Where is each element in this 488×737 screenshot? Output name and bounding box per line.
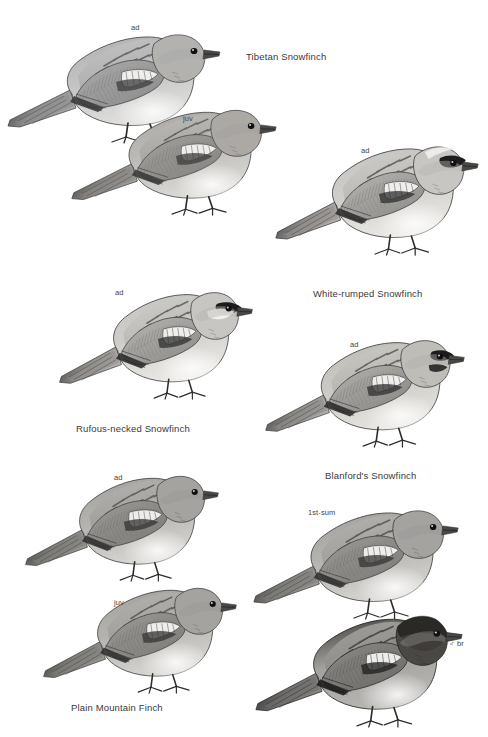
bird-illustration-plain-mf-juv	[40, 570, 240, 696]
bird-illustration-plain-mf-male-br	[252, 598, 466, 730]
species-name-white-rumped-snowfinch: White-rumped Snowfinch	[313, 288, 422, 299]
age-label-plain-mf-1st-sum: 1st-sum	[308, 508, 335, 517]
bird-illustration-rufous-necked-ad	[56, 274, 256, 402]
age-label-tibetan-juv: juv	[183, 114, 193, 123]
species-name-rufous-necked-snowfinch: Rufous-necked Snowfinch	[76, 423, 190, 434]
age-label-blanfords-ad: ad	[350, 340, 359, 349]
age-label-plain-mf-ad: ad	[114, 473, 123, 482]
bird-illustration-white-rumped-ad	[272, 128, 482, 258]
age-label-plain-mf-male-br: ♂ br	[449, 639, 464, 648]
age-label-white-rumped-ad: ad	[361, 146, 370, 155]
species-name-tibetan-snowfinch: Tibetan Snowfinch	[246, 51, 326, 62]
age-label-rufous-necked-ad: ad	[115, 288, 124, 297]
bird-illustration-tibetan-juv	[68, 92, 280, 218]
species-name-blanfords-snowfinch: Blanford's Snowfinch	[325, 470, 416, 481]
age-label-plain-mf-juv: juv	[114, 598, 124, 607]
bird-illustration-blanfords-ad	[262, 322, 468, 450]
illustration-plate: ad	[0, 0, 488, 737]
species-name-plain-mountain-finch: Plain Mountain Finch	[71, 702, 163, 713]
age-label-tibetan-ad: ad	[131, 23, 140, 32]
